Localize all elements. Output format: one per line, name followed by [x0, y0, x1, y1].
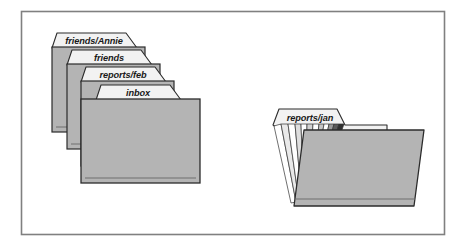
open-folder-tab-label: reports/jan	[287, 113, 334, 123]
folder-inbox[interactable]: inbox	[81, 85, 200, 183]
folder-tab-label: friends/Annie	[65, 36, 122, 46]
folders-illustration: friends/Annie friends reports/feb inbox	[0, 0, 466, 249]
folder-tab-label: inbox	[126, 88, 151, 98]
open-folder-front-panel	[294, 130, 424, 206]
folder-tab-label: friends	[94, 53, 124, 63]
figure-canvas: friends/Annie friends reports/feb inbox	[0, 0, 466, 249]
folder-body	[81, 99, 200, 183]
folder-tab-label: reports/feb	[100, 70, 147, 80]
